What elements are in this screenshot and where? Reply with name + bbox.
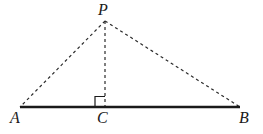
vertex-label-a: A [10,110,20,126]
right-angle-marker [95,97,105,108]
vertex-label-p: P [98,2,108,18]
segment-PB [105,21,240,107]
segment-PA [20,21,105,107]
geometry-canvas [0,0,263,134]
vertex-label-c: C [97,110,108,126]
vertex-label-b: B [239,110,249,126]
geometry-diagram: P A C B [0,0,263,134]
